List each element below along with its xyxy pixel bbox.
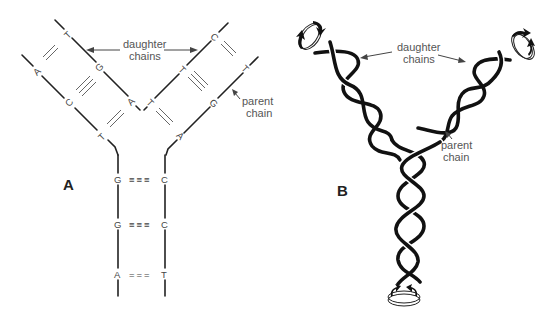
base: T — [96, 131, 108, 143]
base: C — [161, 219, 168, 230]
parent-chain-label-b: parent — [441, 139, 472, 151]
parent-chain-label-b-line2: chain — [443, 151, 469, 163]
hydrogen-bond: === — [129, 269, 152, 280]
stem-pair-2: G ≡≡≡ C — [114, 219, 168, 230]
base: G — [114, 174, 121, 185]
dna-replication-figure: A C T T G A C T T — [0, 0, 554, 318]
right-fork-bonds — [156, 41, 236, 125]
rotation-icon-bottom — [388, 284, 420, 306]
daughter-chains-label-a-line2: chains — [129, 50, 161, 62]
daughter-chains-label-b: daughter — [397, 41, 441, 53]
rotation-icon-top-right — [507, 28, 538, 63]
left-daughter-helix — [315, 42, 400, 160]
parent-stem: G ≡≡≡ C G ≡≡≡ C A === T — [114, 155, 168, 296]
daughter-chains-label-a: daughter — [123, 38, 167, 50]
stem-pair-3: A === T — [114, 269, 167, 280]
panel-label-a: A — [63, 176, 74, 193]
base: A — [114, 269, 121, 280]
base: T — [239, 63, 251, 75]
parent-arrow-a — [232, 89, 240, 99]
base: T — [161, 269, 167, 280]
panel-b: daughter chains parent chain B — [294, 20, 538, 306]
stem-pair-1: G ≡≡≡ C — [114, 174, 168, 185]
parent-chain-label-a: parent — [242, 95, 273, 107]
base: C — [161, 174, 168, 185]
daughter-chains-label-b-line2: chains — [403, 53, 435, 65]
right-daughter-helix — [418, 52, 510, 142]
hydrogen-bond: ≡≡≡ — [129, 219, 152, 230]
base: G — [114, 219, 121, 230]
rotation-icon-top-left — [294, 20, 326, 53]
panel-label-b: B — [337, 182, 348, 199]
hydrogen-bond: ≡≡≡ — [129, 174, 152, 185]
left-fork-bonds — [43, 45, 124, 127]
panel-a: A C T T G A C T T — [22, 20, 273, 296]
parent-chain-label-a-line2: chain — [246, 107, 272, 119]
base: C — [63, 96, 76, 109]
